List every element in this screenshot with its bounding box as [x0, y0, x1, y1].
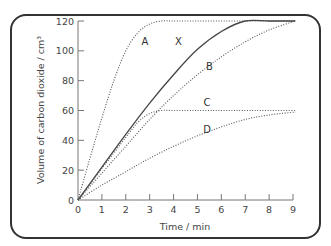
x-tick-label: 3 [147, 204, 153, 215]
y-axis-label: Volume of carbon dioxide / cm³ [35, 36, 46, 184]
x-tick-label: 6 [218, 204, 224, 215]
curve-label-c: C [204, 97, 211, 108]
x-tick-label: 8 [266, 204, 272, 215]
y-tick-label: 20 [62, 165, 74, 176]
x-tick-label: 9 [290, 204, 296, 215]
y-tick-label: 80 [62, 75, 74, 86]
curve-label-b: B [206, 61, 213, 72]
y-tick-label: 0 [68, 195, 74, 206]
x-axis-label: Time / min [159, 221, 210, 232]
x-tick-label: 2 [123, 204, 129, 215]
y-tick-label: 40 [62, 135, 74, 146]
y-tick-label: 100 [56, 45, 74, 56]
line-chart: 0123456789020406080100120 AXBCD Time / m… [0, 0, 331, 246]
y-tick-label: 120 [56, 16, 74, 27]
curve-label-a: A [141, 36, 148, 47]
curve-label-d: D [203, 124, 211, 135]
x-tick-label: 5 [194, 204, 200, 215]
x-tick-label: 0 [75, 204, 81, 215]
x-tick-label: 1 [99, 204, 105, 215]
curve-labels: AXBCD [141, 36, 212, 135]
x-tick-label: 7 [242, 204, 248, 215]
y-tick-label: 60 [62, 105, 74, 116]
curve-label-x: X [175, 36, 182, 47]
curves [78, 20, 295, 200]
x-tick-label: 4 [171, 204, 177, 215]
